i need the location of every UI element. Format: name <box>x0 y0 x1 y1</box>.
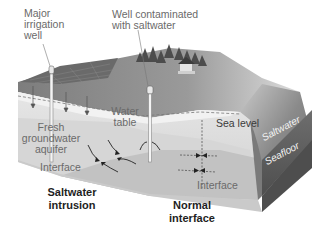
caption-normal-interface: Normal interface <box>160 199 224 225</box>
label-interface-right: Interface <box>197 180 238 191</box>
caption-line: Saltwater <box>40 186 104 199</box>
caption-line: intrusion <box>40 199 104 212</box>
label-well-contaminated: Well contaminated with saltwater <box>112 9 198 31</box>
caption-line: Normal <box>160 199 224 212</box>
saltwater-intrusion-diagram: Major irrigation well Well contaminated … <box>0 0 322 227</box>
label-water-table: Water table <box>108 106 142 128</box>
label-interface-left: Interface <box>40 162 81 173</box>
caption-line: interface <box>160 212 224 225</box>
label-major-irrigation-well: Major irrigation well <box>24 8 64 41</box>
label-fresh-groundwater-aquifer: Fresh groundwater aquifer <box>20 122 82 155</box>
label-line: aquifer <box>20 144 82 155</box>
label-line: table <box>108 117 142 128</box>
caption-saltwater-intrusion: Saltwater intrusion <box>40 186 104 212</box>
label-line: with saltwater <box>112 20 198 31</box>
label-line: well <box>24 30 64 41</box>
leader-irrigation-well <box>43 44 50 66</box>
label-sea-level: Sea level <box>216 118 259 129</box>
